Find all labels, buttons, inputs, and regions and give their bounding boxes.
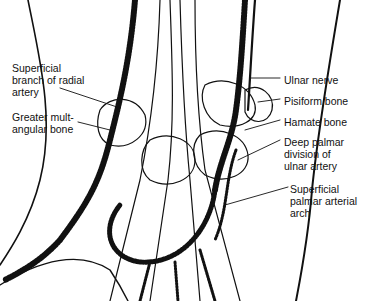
label-superficial-palmar-arterial-arch: Superficial palmar arterial arch	[290, 183, 357, 219]
label-pisiform-bone: Pisiform bone	[284, 95, 348, 107]
label-greater-multangular-bone: Greater mult- angular bone	[12, 111, 74, 135]
label-ulnar-nerve: Ulnar nerve	[284, 74, 338, 86]
label-hamate-bone: Hamate bone	[284, 116, 347, 128]
label-deep-palmar-division-ulnar-artery: Deep palmar division of ulnar artery	[284, 136, 344, 172]
label-superficial-branch-radial-artery: Superficial branch of radial artery	[12, 62, 84, 98]
anatomy-diagram: Superficial branch of radial artery Grea…	[0, 0, 368, 301]
